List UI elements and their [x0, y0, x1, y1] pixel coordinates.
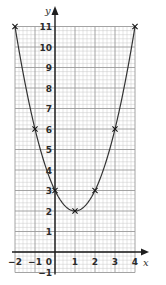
x-tick-label: −2	[8, 257, 22, 267]
y-tick-label: 1	[46, 227, 52, 237]
y-tick-label: 5	[46, 145, 52, 155]
x-axis-label: x	[143, 257, 149, 268]
y-tick-label: 7	[46, 104, 52, 114]
y-tick-label: 11	[39, 22, 52, 32]
y-tick-label: 10	[39, 43, 52, 53]
axes	[12, 6, 149, 275]
x-tick-label: 4	[132, 257, 138, 267]
x-tick-label: 0	[46, 257, 52, 267]
graph: −2−101234−11234567891011 x y	[0, 0, 166, 285]
x-tick-label: 3	[112, 257, 118, 267]
y-axis-label: y	[44, 5, 51, 16]
y-tick-label: 2	[46, 207, 52, 217]
x-tick-label: −1	[28, 257, 42, 267]
y-tick-label: 8	[46, 84, 52, 94]
x-tick-label: 2	[92, 257, 98, 267]
y-tick-label: 6	[46, 125, 52, 135]
y-tick-label: 3	[46, 186, 52, 196]
y-tick-label: −1	[38, 268, 52, 278]
y-tick-label: 9	[46, 63, 52, 73]
x-tick-label: 1	[72, 257, 78, 267]
